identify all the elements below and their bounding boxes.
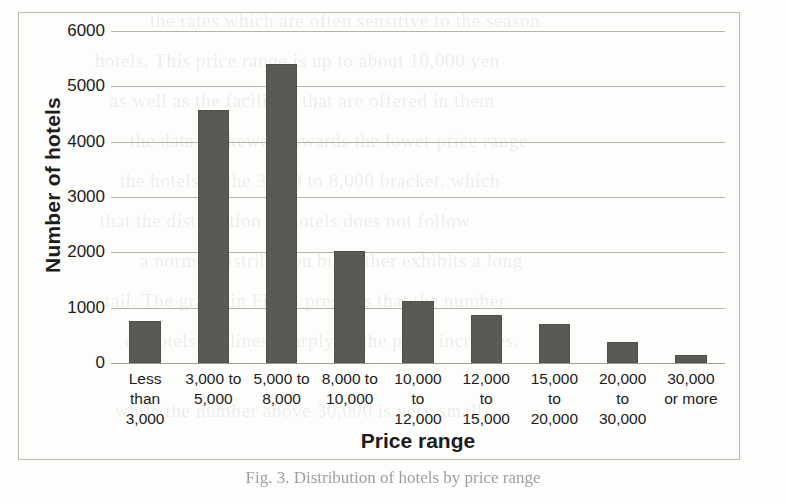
bar[interactable] bbox=[402, 301, 433, 363]
y-axis-tick-label: 5000 bbox=[67, 76, 105, 96]
x-axis-tick-label: 3,000 to 5,000 bbox=[179, 369, 247, 429]
y-axis-tick-labels: 0100020003000400050006000 bbox=[43, 13, 105, 459]
bar-slot[interactable] bbox=[247, 31, 315, 363]
bar[interactable] bbox=[607, 342, 638, 363]
bar-chart-figure: Number of hotels 01000200030004000500060… bbox=[18, 12, 740, 460]
bar-slot[interactable] bbox=[520, 31, 588, 363]
gridline bbox=[111, 363, 725, 364]
bar[interactable] bbox=[198, 110, 229, 363]
y-axis-tick-label: 1000 bbox=[67, 298, 105, 318]
bar[interactable] bbox=[675, 355, 706, 363]
x-axis-tick-label: Less than 3,000 bbox=[111, 369, 179, 429]
bar-slot[interactable] bbox=[316, 31, 384, 363]
y-axis-tick-label: 0 bbox=[96, 353, 105, 373]
x-axis-tick-label: 8,000 to 10,000 bbox=[316, 369, 384, 429]
bar-slot[interactable] bbox=[384, 31, 452, 363]
bar-slot[interactable] bbox=[589, 31, 657, 363]
y-axis-tick-label: 4000 bbox=[67, 132, 105, 152]
x-axis-tick-label: 5,000 to 8,000 bbox=[247, 369, 315, 429]
y-axis-tick-label: 3000 bbox=[67, 187, 105, 207]
bar[interactable] bbox=[334, 251, 365, 363]
x-axis-tick-labels: Less than 3,0003,000 to 5,0005,000 to 8,… bbox=[111, 369, 725, 429]
bar-slot[interactable] bbox=[657, 31, 725, 363]
y-axis-tick-label: 6000 bbox=[67, 21, 105, 41]
bar-slot[interactable] bbox=[111, 31, 179, 363]
bar-series bbox=[111, 31, 725, 363]
figure-caption: Fig. 3. Distribution of hotels by price … bbox=[0, 468, 786, 488]
x-axis-tick-label: 15,000 to 20,000 bbox=[520, 369, 588, 429]
bar[interactable] bbox=[129, 321, 160, 363]
y-axis-tick-label: 2000 bbox=[67, 242, 105, 262]
bar[interactable] bbox=[471, 315, 502, 363]
bar-slot[interactable] bbox=[452, 31, 520, 363]
bar[interactable] bbox=[266, 64, 297, 363]
plot-area bbox=[111, 31, 725, 363]
x-axis-tick-label: 30,000 or more bbox=[657, 369, 725, 429]
bar-slot[interactable] bbox=[179, 31, 247, 363]
chart-plot-wrapper: Number of hotels 01000200030004000500060… bbox=[19, 13, 739, 459]
x-axis-tick-label: 20,000 to 30,000 bbox=[589, 369, 657, 429]
x-axis-tick-label: 12,000 to 15,000 bbox=[452, 369, 520, 429]
x-axis-tick-label: 10,000 to 12,000 bbox=[384, 369, 452, 429]
x-axis-title: Price range bbox=[111, 429, 725, 453]
bar[interactable] bbox=[539, 324, 570, 363]
